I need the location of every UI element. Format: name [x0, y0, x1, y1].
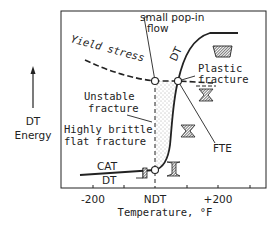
popin-label-line2: flow: [147, 22, 169, 34]
brittle-fracture-label-line2: flat fracture: [64, 135, 146, 147]
yield-stress-label: Yield stress: [69, 32, 145, 63]
x-tick-plus-200: +200: [204, 193, 233, 205]
fte-marker: [175, 78, 182, 85]
x-tick-ndt: NDT: [144, 193, 167, 205]
brittle-fracture-label-line1: Highly brittle: [64, 123, 153, 135]
fracture-analysis-diagram: DT Energy Yield stress small pop-in flow: [0, 0, 280, 228]
unstable-leader: [127, 115, 152, 122]
unstable-specimen-icon: [181, 125, 195, 137]
y-axis-arrow-icon: [31, 66, 36, 108]
plastic-fracture-label-line2: fracture: [198, 73, 249, 85]
fte-label: FTE: [213, 142, 232, 154]
ndt-specimen-icon: [167, 162, 180, 176]
x-tick-minus-200: -200: [81, 193, 105, 205]
ndt-yield-marker: [152, 78, 159, 85]
y-axis-label-dt: DT: [26, 115, 41, 127]
x-axis-label: Temperature, °F: [118, 206, 213, 218]
unstable-fracture-label-line2: fracture: [88, 102, 139, 114]
yield-stress-curve: [85, 60, 213, 83]
ndt-marker: [152, 167, 159, 174]
unstable-fracture-label-line1: Unstable: [84, 90, 135, 102]
brittle-specimen-icon: [136, 168, 147, 178]
y-axis-label-energy: Energy: [15, 129, 52, 141]
cat-label: CAT: [97, 160, 118, 172]
plastic-specimen-icon: [213, 46, 232, 57]
dt-curve-label: DT: [167, 44, 184, 63]
fte-specimen-icon: [196, 86, 216, 101]
dt-low-label: DT: [102, 174, 117, 186]
